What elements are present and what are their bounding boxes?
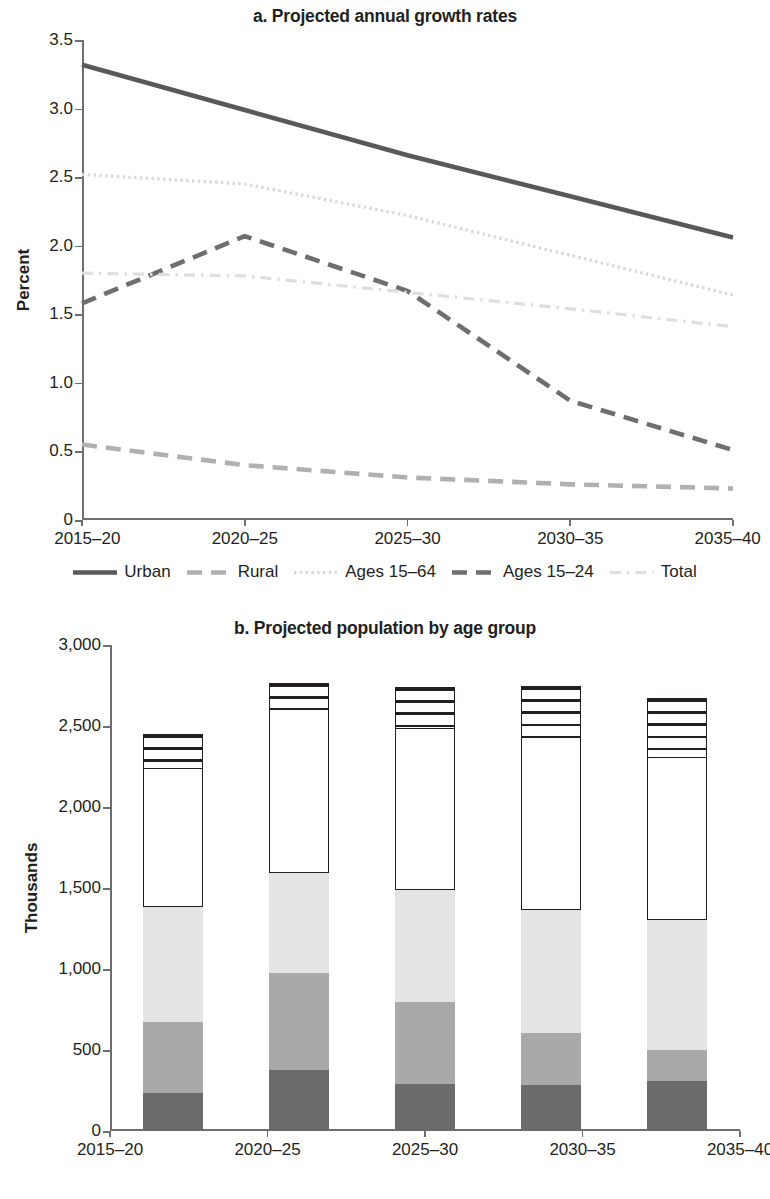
line-series-ages-15-24 [82, 236, 733, 450]
panel-a-y-axis-label: Percent [14, 249, 34, 311]
y-tick-mark [103, 645, 110, 647]
panel-b-y-axis-label: Thousands [22, 843, 42, 934]
panel-b-title: b. Projected population by age group [0, 618, 770, 639]
x-tick-mark [569, 520, 571, 526]
x-tick-mark [739, 1131, 741, 1137]
y-tick-label: 0.5 [49, 441, 73, 461]
y-tick-label: 1.5 [49, 304, 73, 324]
x-tick-mark [244, 520, 246, 526]
legend-item-rural[interactable]: Rural [187, 562, 279, 582]
y-tick-label: 500 [73, 1040, 101, 1060]
bar-segment-0-14 [143, 1093, 203, 1131]
x-tick-label: 2020–25 [234, 1140, 300, 1160]
legend-label: Ages 15–24 [503, 562, 594, 582]
x-tick-label: 2015–20 [77, 1140, 143, 1160]
bar-segment-15-24 [395, 1002, 455, 1084]
y-tick-mark [75, 40, 82, 42]
x-tick-mark [732, 520, 734, 526]
figure-root: a. Projected annual growth rates Percent… [0, 0, 770, 1199]
legend-item-ages-15-64[interactable]: Ages 15–64 [294, 562, 436, 582]
bar-segment-65+ [143, 734, 203, 768]
bar-segment-25-39 [521, 910, 581, 1033]
legend-label: Rural [238, 562, 279, 582]
bar-segment-15-24 [647, 1050, 707, 1081]
bar-segment-15-24 [521, 1033, 581, 1085]
y-tick-mark [75, 451, 82, 453]
y-tick-label: 0 [64, 510, 73, 530]
y-tick-mark [75, 109, 82, 111]
y-tick-mark [103, 969, 110, 971]
y-tick-label: 0 [92, 1121, 101, 1141]
bar-segment-0-14 [647, 1081, 707, 1131]
bar-segment-40-64 [395, 728, 455, 890]
line-series-urban [82, 65, 733, 238]
legend-label: Urban [124, 562, 170, 582]
x-tick-mark [81, 520, 83, 526]
bar-segment-25-39 [647, 920, 707, 1050]
y-tick-label: 2,000 [58, 797, 101, 817]
y-tick-label: 2,500 [58, 716, 101, 736]
x-tick-label: 2020–25 [212, 529, 278, 549]
bar-segment-15-24 [143, 1022, 203, 1092]
x-tick-mark [424, 1131, 426, 1137]
bar-segment-0-14 [269, 1070, 329, 1131]
y-tick-label: 3.0 [49, 99, 73, 119]
legend-item-urban[interactable]: Urban [73, 562, 170, 582]
stacked-bar [143, 734, 203, 1131]
x-tick-label: 2035–40 [707, 1140, 770, 1160]
x-tick-label: 2030–35 [537, 529, 603, 549]
bar-segment-25-39 [143, 907, 203, 1022]
y-tick-mark [75, 314, 82, 316]
bar-segment-65+ [521, 686, 581, 737]
y-tick-mark [103, 888, 110, 890]
y-tick-mark [75, 246, 82, 248]
bar-segment-15-24 [269, 973, 329, 1070]
x-tick-mark [109, 1131, 111, 1137]
bar-segment-65+ [647, 698, 707, 757]
y-tick-mark [75, 177, 82, 179]
solid-line-dark-icon [73, 562, 117, 582]
y-tick-mark [75, 383, 82, 385]
bar-segment-40-64 [143, 768, 203, 907]
bar-segment-65+ [395, 687, 455, 728]
y-tick-mark [103, 807, 110, 809]
x-tick-label: 2025–30 [392, 1140, 458, 1160]
panel-b-plot-area: Thousands 05001,0001,5002,0002,5003,000 … [110, 645, 740, 1131]
bar-segment-40-64 [521, 737, 581, 910]
stacked-bar [269, 683, 329, 1131]
legend-label: Ages 15–64 [345, 562, 436, 582]
legend-label: Total [661, 562, 697, 582]
legend-item-ages-15-24[interactable]: Ages 15–24 [452, 562, 594, 582]
panel-a-series-lines [82, 40, 733, 520]
panel-a-title: a. Projected annual growth rates [0, 6, 770, 27]
y-tick-label: 3,000 [58, 635, 101, 655]
stacked-bar [647, 698, 707, 1131]
stacked-bar [395, 687, 455, 1131]
bar-segment-25-39 [269, 873, 329, 973]
x-tick-mark [407, 520, 409, 526]
y-tick-label: 2.0 [49, 236, 73, 256]
bar-segment-65+ [269, 683, 329, 709]
x-tick-label: 2035–40 [695, 529, 761, 549]
dashed-line-dark-icon [452, 562, 496, 582]
x-tick-mark [582, 1131, 584, 1137]
bar-segment-25-39 [395, 890, 455, 1002]
dotted-line-light-icon [294, 562, 338, 582]
y-tick-label: 1,000 [58, 959, 101, 979]
y-tick-mark [103, 726, 110, 728]
x-tick-label: 2015–20 [54, 529, 120, 549]
y-tick-label: 1,500 [58, 878, 101, 898]
panel-b-y-axis [110, 645, 112, 1131]
bar-segment-40-64 [647, 757, 707, 921]
panel-a-growth-rates: a. Projected annual growth rates Percent… [0, 0, 770, 600]
y-tick-label: 1.0 [49, 373, 73, 393]
dashdot-line-light-icon [610, 562, 654, 582]
y-tick-label: 3.5 [49, 30, 73, 50]
bar-segment-0-14 [395, 1084, 455, 1131]
bar-segment-0-14 [521, 1085, 581, 1131]
line-series-rural [82, 445, 733, 489]
x-tick-mark [267, 1131, 269, 1137]
x-tick-label: 2030–35 [549, 1140, 615, 1160]
legend-item-total[interactable]: Total [610, 562, 697, 582]
x-tick-label: 2025–30 [374, 529, 440, 549]
